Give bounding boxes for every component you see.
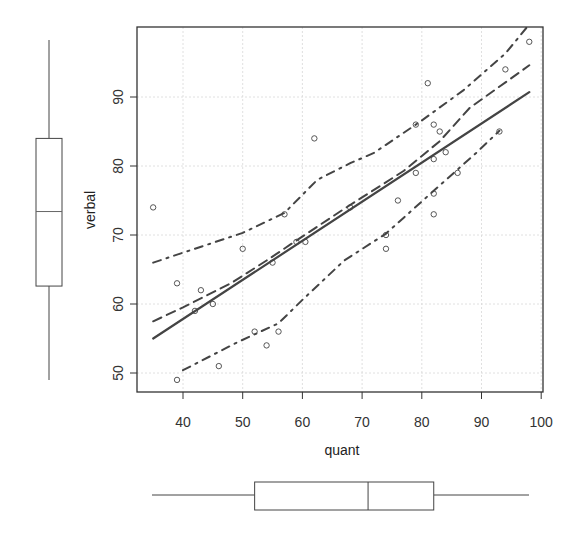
x-axis: 405060708090100 <box>175 392 553 430</box>
x-tick-label: 60 <box>295 414 311 430</box>
data-point <box>431 212 436 217</box>
linear-fit-line <box>153 92 529 338</box>
fit-lines <box>153 28 529 370</box>
verbal-boxplot <box>36 40 62 380</box>
data-point <box>174 377 179 382</box>
data-point <box>437 129 442 134</box>
grid-lines <box>137 27 543 392</box>
data-point <box>150 205 155 210</box>
data-point <box>276 329 281 334</box>
scatter-plot: 405060708090100 5060708090 quant verbal <box>0 0 584 539</box>
data-point <box>312 136 317 141</box>
y-tick-label: 60 <box>110 296 126 312</box>
quant-boxplot <box>152 482 529 510</box>
x-axis-title: quant <box>324 442 359 458</box>
data-point <box>264 343 269 348</box>
data-point <box>503 67 508 72</box>
lower-band-line <box>183 131 499 370</box>
x-tick-label: 90 <box>474 414 490 430</box>
data-point <box>443 150 448 155</box>
y-tick-label: 70 <box>110 227 126 243</box>
x-tick-label: 40 <box>175 414 191 430</box>
data-point <box>431 122 436 127</box>
data-point <box>431 156 436 161</box>
data-point <box>425 81 430 86</box>
y-axis: 5060708090 <box>110 89 137 381</box>
data-point <box>216 363 221 368</box>
y-tick-label: 90 <box>110 89 126 105</box>
data-point <box>413 170 418 175</box>
plot-frame <box>137 27 543 392</box>
x-tick-label: 80 <box>414 414 430 430</box>
loess-smooth-line <box>153 65 529 321</box>
y-tick-label: 80 <box>110 158 126 174</box>
data-point <box>174 281 179 286</box>
data-point <box>527 39 532 44</box>
data-point <box>198 288 203 293</box>
data-point <box>455 170 460 175</box>
data-point <box>395 198 400 203</box>
y-tick-label: 50 <box>110 365 126 381</box>
y-axis-title: verbal <box>82 191 98 229</box>
data-point <box>383 246 388 251</box>
x-tick-label: 100 <box>530 414 554 430</box>
upper-band-line <box>153 28 526 263</box>
x-tick-label: 50 <box>235 414 251 430</box>
x-tick-label: 70 <box>354 414 370 430</box>
